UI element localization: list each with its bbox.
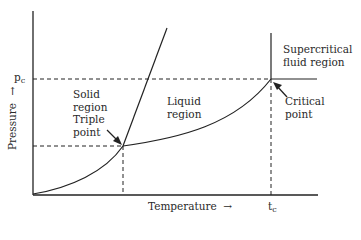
y-axis-label: Pressure → [6, 87, 18, 150]
y-tick-pc: pc [14, 71, 25, 88]
liquid-line2: region [167, 108, 201, 121]
fusion-line [123, 28, 167, 146]
critical-line1: Critical [285, 95, 325, 108]
solid-line1: Solid [73, 88, 107, 101]
x-axis-arrow-icon: → [223, 200, 232, 212]
solid-line2: region [73, 101, 107, 114]
liquid-line1: Liquid [167, 95, 201, 108]
y-axis-label-text: Pressure [6, 103, 18, 150]
critical-line2: point [285, 108, 325, 121]
sublimation-curve [33, 146, 123, 194]
liquid-region-label: Liquid region [167, 95, 201, 120]
supercritical-line1: Supercritical [283, 43, 352, 56]
solid-region-label: Solid region [73, 88, 107, 113]
triple-line1: Triple [73, 113, 105, 126]
y-axis-arrow-icon: → [6, 87, 18, 96]
x-axis-label-text: Temperature [148, 200, 217, 212]
critical-point-label: Critical point [285, 95, 325, 120]
triple-point-label: Triple point [73, 113, 105, 138]
supercritical-region-label: Supercritical fluid region [283, 43, 352, 68]
tc-sub: c [272, 205, 276, 214]
pc-sub: c [21, 76, 25, 85]
supercritical-line2: fluid region [283, 56, 352, 69]
triple-line2: point [73, 126, 105, 139]
triple-point-arrow-icon [107, 130, 122, 145]
x-tick-tc: tc [268, 200, 277, 217]
x-axis-label: Temperature → [148, 200, 232, 213]
pc-main: p [14, 71, 21, 83]
